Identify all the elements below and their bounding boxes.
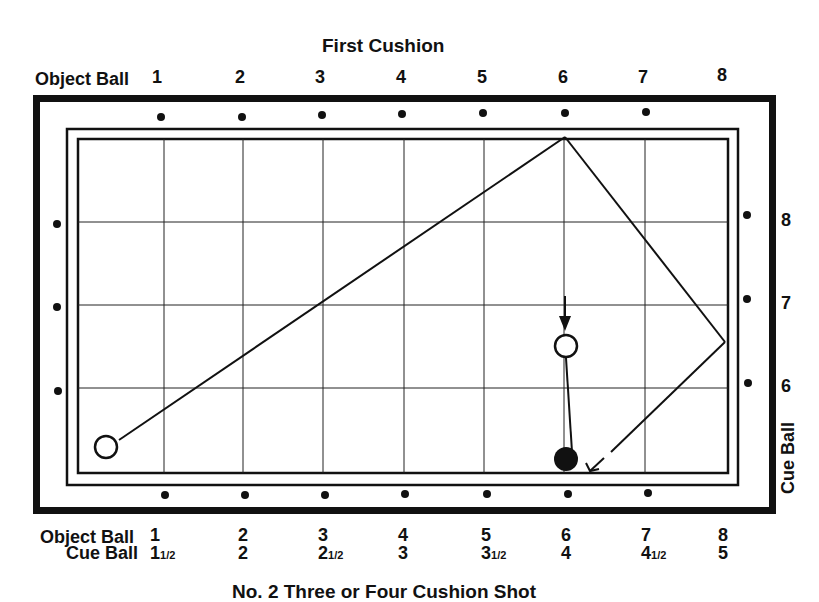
- bottom-object-number-7: 7: [641, 526, 651, 544]
- cue-ball-path: [119, 137, 725, 471]
- table-cushion: [78, 139, 728, 473]
- bottom-object-number-5: 5: [481, 526, 491, 544]
- bottom-object-number-8: 8: [718, 526, 728, 544]
- object-ball-path: [566, 358, 572, 452]
- right-cue-ball-label: Cue Ball: [778, 422, 799, 494]
- bottom-cue-number-7: 41/2: [641, 544, 666, 562]
- object-ball: [555, 335, 577, 357]
- bottom-object-number-4: 4: [398, 526, 408, 544]
- object-ball-target: [554, 447, 578, 471]
- arrow-down-icon: [559, 296, 571, 331]
- bottom-cue-ball-label: Cue Ball: [66, 544, 138, 562]
- cue-ball: [95, 436, 117, 458]
- bottom-cue-number-5: 31/2: [481, 544, 506, 562]
- bottom-cue-number-6: 4: [561, 544, 571, 562]
- bottom-cue-number-1: 11/2: [150, 544, 175, 562]
- bottom-cue-number-8: 5: [718, 544, 728, 562]
- bottom-cue-number-2: 2: [238, 544, 248, 562]
- diagram-caption: No. 2 Three or Four Cushion Shot: [232, 582, 536, 601]
- right-number-7: 7: [781, 294, 791, 312]
- diamonds-left: [53, 220, 62, 395]
- table-rail: [67, 129, 738, 485]
- diamonds-top: [157, 108, 650, 121]
- diamonds-right: [743, 211, 752, 387]
- bottom-object-number-6: 6: [561, 526, 571, 544]
- bottom-cue-number-4: 3: [398, 544, 408, 562]
- table-grid: [78, 139, 728, 473]
- bottom-object-number-3: 3: [318, 526, 328, 544]
- bottom-object-number-2: 2: [238, 526, 248, 544]
- diamonds-bottom: [161, 489, 652, 499]
- bottom-cue-number-3: 21/2: [318, 544, 343, 562]
- right-number-8: 8: [781, 211, 791, 229]
- right-number-6: 6: [781, 377, 791, 395]
- bottom-object-number-1: 1: [150, 526, 160, 544]
